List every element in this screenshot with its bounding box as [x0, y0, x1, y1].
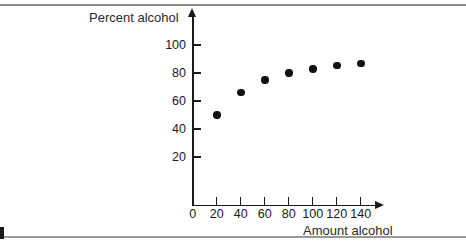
y-tick-label-text: 100 — [150, 39, 186, 52]
y-tick-mark — [194, 44, 201, 45]
x-tick-mark — [216, 197, 217, 205]
x-tick-mark — [288, 197, 289, 205]
x-tick-mark — [336, 197, 337, 205]
y-tick-label-text: 20 — [150, 151, 186, 164]
y-tick-label-text: 60 — [150, 95, 186, 108]
x-axis-title: Amount alcohol — [303, 223, 393, 238]
scatter-plot: Percent alcohol Amount alcohol 204060801… — [0, 0, 466, 243]
data-point — [285, 69, 292, 76]
x-tick-label: 140 — [341, 207, 381, 221]
chart-screenshot: Percent alcohol Amount alcohol 204060801… — [0, 0, 466, 243]
x-tick-mark — [360, 197, 361, 205]
x-tick-mark — [264, 197, 265, 205]
x-tick-mark — [312, 197, 313, 205]
y-tick-label-text: 80 — [150, 67, 186, 80]
data-point — [333, 62, 340, 69]
y-tick-mark — [194, 128, 201, 129]
x-tick-mark — [240, 197, 241, 205]
data-point — [309, 65, 316, 72]
data-point — [261, 76, 268, 83]
y-axis-title: Percent alcohol — [89, 10, 179, 25]
y-tick-mark — [194, 156, 201, 157]
data-point — [213, 111, 220, 118]
data-point — [237, 89, 244, 96]
data-point — [357, 60, 364, 67]
y-tick-mark — [194, 72, 201, 73]
y-tick-mark — [194, 100, 201, 101]
y-tick-label-text: 40 — [150, 123, 186, 136]
y-axis-arrow-icon — [188, 8, 196, 17]
